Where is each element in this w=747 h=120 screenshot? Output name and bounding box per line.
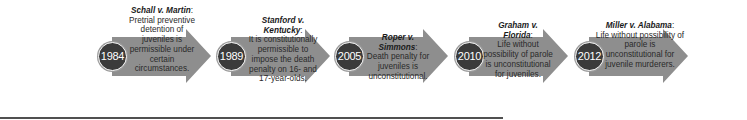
- year-badge: 2005: [335, 42, 364, 71]
- case-holding: Death penalty for juveniles is unconstit…: [367, 52, 429, 80]
- event-caption: Stanford v. Kentucky: It is constitution…: [245, 16, 321, 84]
- case-holding: It is constitutionally permissible to im…: [249, 35, 318, 83]
- case-name: Stanford v. Kentucky: [262, 16, 304, 35]
- year-badge: 1989: [217, 42, 246, 71]
- case-name: Schall v. Martin: [131, 6, 191, 15]
- event-caption: Graham v. Florida: Life without possibil…: [483, 21, 553, 79]
- year-badge: 1984: [98, 42, 127, 71]
- case-name: Roper v. Simmons: [378, 33, 415, 52]
- horizontal-divider: [0, 117, 503, 119]
- event-caption: Miller v. Alabama: Life without possibil…: [595, 21, 685, 70]
- case-holding: Life without possibility of parole is un…: [596, 31, 684, 69]
- court-cases-timeline: 1984 Schall v. Martin: Pretrial preventi…: [0, 0, 747, 120]
- case-holding: Life without possibility of parole is un…: [483, 40, 553, 78]
- case-holding: Pretrial preventive detention of juvenil…: [129, 16, 195, 74]
- case-name: Miller v. Alabama: [606, 21, 672, 30]
- event-caption: Roper v. Simmons: Death penalty for juve…: [363, 33, 433, 82]
- event-caption: Schall v. Martin: Pretrial preventive de…: [128, 6, 196, 74]
- year-badge: 2010: [455, 42, 484, 71]
